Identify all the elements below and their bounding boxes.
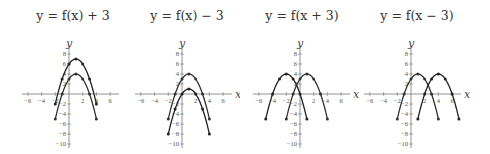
panel-shift-right: y = f(x − 3) xy−6−4−2246−10−8−6−4−22468 (360, 0, 490, 154)
data-point (54, 118, 57, 121)
x-tick-label: −4 (151, 97, 159, 104)
x-tick-label: 6 (108, 97, 112, 104)
data-point (194, 93, 197, 96)
y-tick-label: 4 (176, 70, 180, 77)
data-point (194, 78, 197, 81)
data-point (181, 93, 184, 96)
data-point (437, 118, 440, 121)
x-tick-label: −6 (24, 97, 32, 104)
data-point (396, 118, 399, 121)
x-axis-label: x (464, 88, 471, 101)
data-point (423, 78, 426, 81)
y-axis-label: y (407, 37, 415, 50)
data-point (95, 103, 98, 106)
data-point (88, 78, 91, 81)
data-point (292, 93, 295, 96)
data-point (299, 93, 302, 96)
data-point (68, 63, 71, 66)
data-point (278, 78, 281, 81)
x-tick-label: 6 (339, 97, 343, 104)
data-point (457, 118, 460, 121)
data-point (54, 103, 57, 106)
data-point (88, 93, 91, 96)
data-point (208, 133, 211, 136)
y-tick-label: 6 (63, 60, 67, 67)
data-point (61, 78, 64, 81)
data-point (305, 73, 308, 76)
data-point (319, 93, 322, 96)
data-point (430, 93, 433, 96)
data-point (187, 88, 190, 91)
x-tick-label: 2 (312, 97, 315, 104)
data-point (312, 78, 315, 81)
data-point (305, 118, 308, 121)
graph-shift-right: xy−6−4−2246−10−8−6−4−22468 (360, 0, 490, 154)
x-tick-label: −6 (255, 97, 263, 104)
y-tick-label: 8 (294, 50, 297, 57)
data-point (292, 78, 295, 81)
data-point (423, 93, 426, 96)
data-point (208, 118, 211, 121)
data-point (68, 78, 71, 81)
x-tick-label: 2 (81, 97, 84, 104)
x-tick-label: 4 (208, 97, 212, 104)
x-tick-label: −6 (366, 97, 374, 104)
y-tick-label: −4 (401, 110, 409, 117)
data-point (430, 78, 433, 81)
data-point (167, 133, 170, 136)
data-point (174, 108, 177, 111)
y-axis-label: y (178, 37, 186, 50)
y-tick-label: −4 (59, 110, 67, 117)
y-tick-label: 6 (294, 60, 298, 67)
y-tick-label: 6 (176, 60, 180, 67)
data-point (299, 78, 302, 81)
y-tick-label: 4 (294, 70, 298, 77)
data-point (403, 93, 406, 96)
data-point (285, 73, 288, 76)
data-point (201, 93, 204, 96)
y-tick-label: 4 (405, 70, 409, 77)
y-tick-label: −10 (287, 140, 297, 147)
y-tick-label: −6 (290, 120, 298, 127)
y-tick-label: −6 (401, 120, 409, 127)
data-point (416, 73, 419, 76)
y-tick-label: 8 (176, 50, 179, 57)
y-tick-label: −10 (56, 140, 66, 147)
data-point (264, 118, 267, 121)
x-tick-label: 4 (437, 97, 441, 104)
data-point (285, 118, 288, 121)
data-point (174, 93, 177, 96)
y-axis-label: y (296, 37, 304, 50)
graph-shift-up: xy−6−4−2246−10−8−6−4−22468 (0, 0, 122, 154)
panel-shift-down: y = f(x) − 3 xy−6−4−2246−10−8−6−4−22468 (122, 0, 240, 154)
y-tick-label: 6 (405, 60, 409, 67)
data-point (81, 78, 84, 81)
data-point (410, 78, 413, 81)
data-point (167, 118, 170, 121)
x-axis-label: x (353, 88, 360, 101)
data-point (416, 118, 419, 121)
data-point (437, 73, 440, 76)
y-tick-label: −4 (290, 110, 298, 117)
data-point (326, 118, 329, 121)
data-point (451, 93, 454, 96)
y-tick-label: −6 (172, 120, 180, 127)
data-point (95, 118, 98, 121)
y-tick-label: −10 (169, 140, 179, 147)
data-point (61, 93, 64, 96)
panel-shift-left: y = f(x + 3) xy−6−4−2246−10−8−6−4−22468 (240, 0, 360, 154)
x-tick-label: −4 (380, 97, 388, 104)
panel-shift-up: y = f(x) + 3 xy−6−4−2246−10−8−6−4−22468 (0, 0, 122, 154)
x-tick-label: 6 (221, 97, 225, 104)
data-point (181, 78, 184, 81)
y-tick-label: 8 (63, 50, 66, 57)
y-tick-label: −10 (398, 140, 408, 147)
graph-shift-left: xy−6−4−2246−10−8−6−4−22468 (240, 0, 360, 154)
data-point (81, 63, 84, 66)
y-tick-label: −8 (401, 130, 408, 137)
data-point (201, 108, 204, 111)
y-tick-label: −8 (290, 130, 297, 137)
x-tick-label: −6 (137, 97, 145, 104)
x-tick-label: 2 (194, 97, 197, 104)
y-tick-label: −6 (59, 120, 67, 127)
